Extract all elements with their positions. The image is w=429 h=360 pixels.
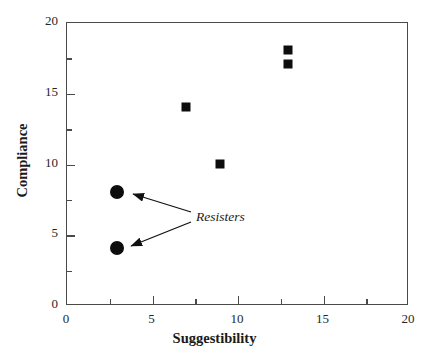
- scatter-plot-figure: 0510152005101520 Resisters Suggestibilit…: [0, 0, 429, 360]
- y-tick-major: [67, 235, 75, 236]
- y-axis-title: Compliance: [14, 106, 31, 216]
- data-point-compliant: [215, 159, 224, 168]
- data-point-resisters: [110, 241, 124, 255]
- x-tick-major: [238, 296, 239, 304]
- x-tick-major: [153, 296, 154, 304]
- data-point-resisters: [110, 185, 124, 199]
- y-tick-label: 10: [45, 155, 58, 171]
- y-tick-minor: [67, 200, 72, 201]
- y-tick-label: 15: [45, 84, 58, 100]
- x-tick-label: 0: [63, 311, 70, 327]
- x-tick-major: [324, 296, 325, 304]
- data-point-compliant: [284, 60, 293, 69]
- x-tick-label: 5: [148, 311, 155, 327]
- x-tick-label: 15: [316, 311, 329, 327]
- y-tick-minor: [67, 271, 72, 272]
- y-tick-label: 5: [52, 225, 59, 241]
- plot-area: [66, 22, 408, 305]
- x-tick-minor: [281, 299, 282, 304]
- x-tick-label: 10: [231, 311, 244, 327]
- x-tick-label: 20: [402, 311, 415, 327]
- data-point-compliant: [181, 102, 190, 111]
- y-tick-minor: [67, 129, 72, 130]
- y-tick-major: [67, 94, 75, 95]
- y-tick-major: [67, 165, 75, 166]
- x-tick-minor: [110, 299, 111, 304]
- data-point-compliant: [284, 46, 293, 55]
- y-tick-label: 20: [45, 13, 58, 29]
- x-axis-title: Suggestibility: [0, 330, 429, 347]
- y-tick-label: 0: [52, 296, 59, 312]
- y-tick-minor: [67, 58, 72, 59]
- resisters-annotation-label: Resisters: [196, 209, 245, 225]
- x-tick-minor: [366, 299, 367, 304]
- x-tick-minor: [195, 299, 196, 304]
